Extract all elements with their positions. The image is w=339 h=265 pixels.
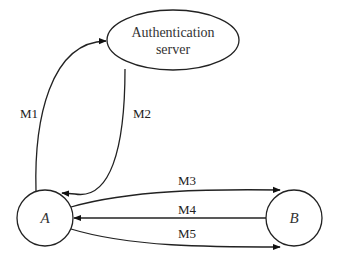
edge-m1 — [36, 41, 106, 191]
auth-server-node — [107, 10, 239, 70]
edge-m1-label: M1 — [20, 106, 38, 121]
node-a-label: A — [39, 210, 50, 226]
auth-server-label-line1: Authentication — [131, 25, 214, 40]
edge-m5 — [71, 229, 280, 247]
edge-m2 — [62, 69, 125, 194]
auth-server-label-line2: server — [156, 42, 191, 57]
edge-m4-label: M4 — [178, 202, 197, 217]
edge-m5-label: M5 — [178, 226, 196, 241]
edge-m3-label: M3 — [178, 173, 196, 188]
edge-m2-label: M2 — [133, 106, 151, 121]
edge-m3 — [71, 190, 280, 207]
protocol-diagram: Authentication server A B M1 M2 M3 M4 M5 — [0, 0, 339, 265]
node-b-label: B — [289, 210, 298, 226]
